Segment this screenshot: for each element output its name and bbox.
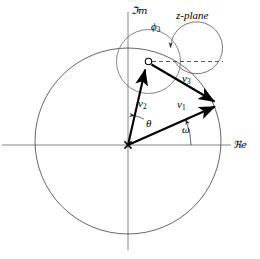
- plane-title: z-plane: [176, 10, 208, 21]
- angle-arc-theta: [135, 116, 144, 119]
- angle-label-phi3: ϕ3: [151, 21, 160, 34]
- zero-marker: [145, 58, 151, 64]
- vector-v1: [128, 107, 215, 146]
- vector-label-v1: v1: [177, 99, 186, 112]
- angle-label-phi3-subscript: 3: [157, 26, 161, 34]
- real-axis-label: ℜe: [233, 140, 247, 150]
- vector-label-v3: v3: [182, 73, 191, 86]
- vector-label-v2: v2: [138, 98, 147, 111]
- vector-label-v3-subscript: 3: [187, 78, 191, 86]
- angle-label-theta: θ: [146, 118, 151, 129]
- figure-canvas: [0, 0, 260, 259]
- z-plane-figure: z-plane ℑm ℜe ϕ3 v3 v2 v1 θ ω: [0, 0, 260, 259]
- angle-label-omega: ω: [182, 124, 190, 135]
- imaginary-axis-label: ℑm: [131, 6, 147, 16]
- angle-arc-phi3: [171, 22, 223, 74]
- vector-label-v1-subscript: 1: [182, 104, 186, 112]
- vector-label-v2-subscript: 2: [143, 103, 147, 111]
